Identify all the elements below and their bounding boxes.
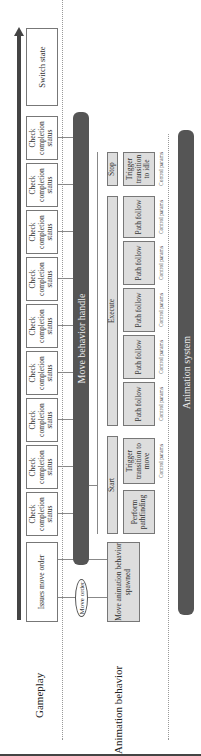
animation-system-bar: Animation system: [178, 130, 194, 615]
control-params-label-1: Control params: [158, 438, 164, 484]
step-path-follow-5: Path follow: [123, 196, 155, 238]
check-completion-box-7: Check completion status: [26, 210, 58, 254]
control-params-label-7: Control params: [158, 152, 164, 186]
lane-label-gameplay: Gameplay: [33, 673, 45, 718]
connector: [58, 278, 73, 279]
move-order-ellipse: Move order: [75, 579, 88, 617]
check-completion-box-5: Check completion status: [26, 304, 58, 348]
control-params-label-4: Control params: [158, 288, 164, 332]
control-params-label-2: Control params: [158, 382, 164, 426]
connector: [58, 137, 73, 138]
control-params-label-5: Control params: [158, 241, 164, 285]
lane-label-animation-behavior: Animation behavior: [112, 666, 124, 754]
step-path-follow-3: Path follow: [123, 288, 155, 332]
switch-state-box: Switch state: [26, 28, 58, 106]
phase-execute: Execute: [107, 196, 118, 426]
connector: [58, 466, 73, 467]
connector: [97, 152, 98, 534]
step-path-follow-1: Path follow: [123, 382, 155, 426]
check-completion-box-8: Check completion status: [26, 163, 58, 207]
diagram-canvas: Gameplay Animation behavior Issues move …: [0, 0, 201, 756]
step-path-follow-2: Path follow: [123, 335, 155, 379]
connector: [89, 485, 97, 486]
connector: [58, 325, 73, 326]
check-completion-box-4: Check completion status: [26, 351, 58, 395]
lane-divider-2: [168, 134, 169, 740]
check-completion-box-9: Check completion status: [26, 116, 58, 160]
move-behavior-handle-bar: Move behavior handle: [73, 112, 89, 565]
check-completion-box-2: Check completion status: [26, 445, 58, 489]
phase-start: Start: [107, 436, 118, 534]
move-animation-behavior-spawned-box: Move animation behavior spawned: [107, 542, 140, 622]
issues-move-order-box: Issues move order: [26, 542, 58, 622]
connector: [58, 419, 73, 420]
connector: [58, 231, 73, 232]
connector: [58, 184, 73, 185]
check-completion-box-3: Check completion status: [26, 398, 58, 442]
phase-stop: Stop: [107, 152, 118, 186]
lane-divider-1: [62, 0, 63, 740]
connector: [58, 372, 73, 373]
step-trigger-transition-to-idle: Trigger transition to idle: [123, 152, 155, 186]
step-perform-pathfinding: Perform pathfinding: [123, 490, 155, 534]
control-params-label-6: Control params: [158, 196, 164, 238]
step-trigger-transition-to-move: Trigger transition to move: [123, 438, 155, 484]
check-completion-box-6: Check completion status: [26, 257, 58, 301]
time-arrow-head-icon: [14, 27, 24, 36]
time-arrow: [17, 34, 21, 620]
step-path-follow-4: Path follow: [123, 241, 155, 285]
control-params-label-3: Control params: [158, 335, 164, 379]
connector: [58, 513, 73, 514]
check-completion-box-1: Check completion status: [26, 492, 58, 536]
